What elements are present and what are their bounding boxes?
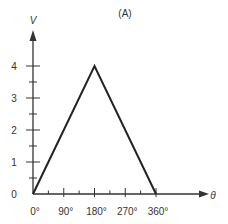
x-tick-label: 90°	[58, 206, 73, 217]
y-tick-label: 4	[11, 61, 17, 72]
x-tick-label: 270°	[117, 206, 138, 217]
x-tick-label: 0°	[30, 206, 40, 217]
y-tick-label: 1	[11, 157, 17, 168]
y-axis-label: V	[30, 15, 38, 26]
x-tick-label: 180°	[86, 206, 107, 217]
axis-ticks	[26, 66, 156, 197]
x-tick-label: 360°	[148, 206, 169, 217]
y-tick-label: 3	[11, 93, 17, 104]
y-tick-label: 0	[11, 189, 17, 200]
triangle-wave-chart: (A) 012340°90°180°270°360° V θ	[0, 0, 228, 224]
y-axis-arrow-icon	[30, 30, 37, 41]
x-axis-label: θ	[210, 190, 216, 201]
chart-title: (A)	[118, 8, 131, 19]
x-axis-arrow-icon	[199, 191, 209, 198]
axes	[30, 30, 210, 198]
y-tick-label: 2	[11, 125, 17, 136]
data-line	[33, 66, 156, 194]
